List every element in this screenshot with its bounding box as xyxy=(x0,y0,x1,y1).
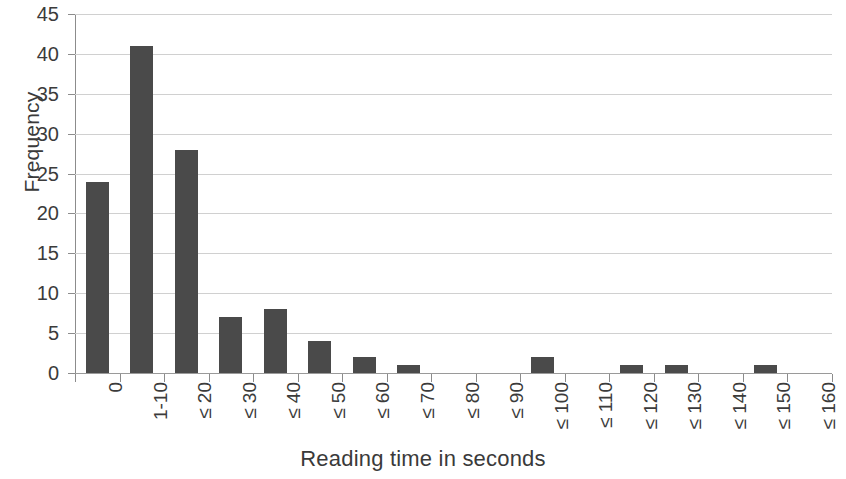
x-tick-label: 0 xyxy=(105,382,127,393)
x-tick-mark xyxy=(120,374,121,382)
bar-series xyxy=(75,14,832,373)
bar xyxy=(264,309,287,373)
bar xyxy=(353,357,376,373)
x-tick-mark xyxy=(787,374,788,382)
x-tick-label: ≤ 30 xyxy=(239,382,261,419)
y-tick-mark-40 xyxy=(68,54,75,55)
y-tick-label-35: 35 xyxy=(0,82,59,105)
bar xyxy=(86,182,109,373)
y-tick-label-30: 30 xyxy=(0,122,59,145)
x-tick-mark xyxy=(565,374,566,382)
y-tick-label-15: 15 xyxy=(0,242,59,265)
bar xyxy=(175,150,198,373)
bar xyxy=(531,357,554,373)
x-tick-mark xyxy=(431,374,432,382)
y-tick-mark-35 xyxy=(68,94,75,95)
x-tick-label: ≤ 100 xyxy=(551,382,573,429)
x-tick-mark xyxy=(609,374,610,382)
x-tick-label: ≤ 60 xyxy=(372,382,394,419)
x-tick-mark xyxy=(698,374,699,382)
x-tick-label: ≤ 130 xyxy=(684,382,706,429)
x-tick-label: 1-10 xyxy=(150,382,172,420)
bar xyxy=(620,365,643,373)
y-tick-label-25: 25 xyxy=(0,162,59,185)
y-tick-label-20: 20 xyxy=(0,202,59,225)
y-tick-mark-5 xyxy=(68,333,75,334)
x-tick-mark xyxy=(832,374,833,382)
y-tick-mark-20 xyxy=(68,213,75,214)
y-tick-mark-30 xyxy=(68,134,75,135)
x-tick-label: ≤ 70 xyxy=(417,382,439,419)
y-tick-mark-45 xyxy=(68,14,75,15)
x-tick-label: ≤ 150 xyxy=(773,382,795,429)
x-tick-mark xyxy=(75,374,76,382)
bar xyxy=(397,365,420,373)
bar xyxy=(308,341,331,373)
plot-area xyxy=(75,14,832,373)
x-tick-label: ≤ 20 xyxy=(194,382,216,419)
bar xyxy=(219,317,242,373)
x-axis-title: Reading time in seconds xyxy=(0,446,846,472)
bar xyxy=(130,46,153,373)
x-tick-label: ≤ 50 xyxy=(328,382,350,419)
x-axis-tick-labels: 01-10≤ 20≤ 30≤ 40≤ 50≤ 60≤ 70≤ 80≤ 90≤ 1… xyxy=(75,382,832,444)
y-tick-mark-15 xyxy=(68,253,75,254)
x-tick-label: ≤ 160 xyxy=(818,382,840,429)
x-tick-mark xyxy=(743,374,744,382)
gridline-0 xyxy=(75,373,832,374)
x-tick-mark xyxy=(654,374,655,382)
x-tick-mark xyxy=(298,374,299,382)
x-tick-mark xyxy=(164,374,165,382)
y-tick-label-40: 40 xyxy=(0,42,59,65)
x-tick-mark xyxy=(520,374,521,382)
y-tick-label-5: 5 xyxy=(0,322,59,345)
x-tick-label: ≤ 120 xyxy=(640,382,662,429)
x-tick-label: ≤ 90 xyxy=(506,382,528,419)
bar xyxy=(665,365,688,373)
x-tick-mark xyxy=(209,374,210,382)
x-tick-label: ≤ 110 xyxy=(595,382,617,428)
y-tick-label-10: 10 xyxy=(0,282,59,305)
y-tick-label-45: 45 xyxy=(0,3,59,26)
x-tick-mark xyxy=(342,374,343,382)
y-tick-label-0: 0 xyxy=(0,362,59,385)
x-tick-mark xyxy=(476,374,477,382)
y-tick-mark-0 xyxy=(68,373,75,374)
y-tick-mark-25 xyxy=(68,174,75,175)
y-tick-mark-10 xyxy=(68,293,75,294)
bar xyxy=(754,365,777,373)
histogram-chart: Frequency 051015202530354045 01-10≤ 20≤ … xyxy=(0,0,846,479)
x-tick-label: ≤ 80 xyxy=(462,382,484,419)
x-tick-mark xyxy=(253,374,254,382)
x-tick-label: ≤ 40 xyxy=(283,382,305,419)
x-tick-mark xyxy=(387,374,388,382)
x-tick-label: ≤ 140 xyxy=(729,382,751,429)
